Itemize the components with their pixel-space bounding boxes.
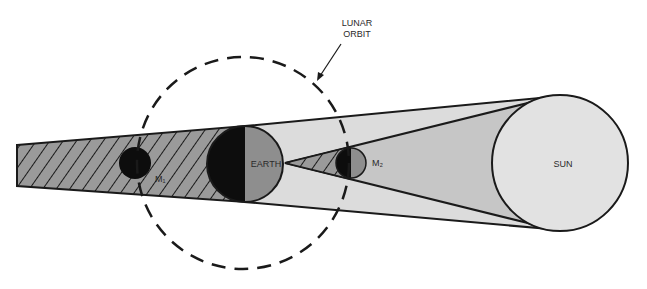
earth-label: EARTH: [251, 159, 281, 169]
sun-label: SUN: [553, 159, 572, 169]
moon-m1-label: M₁: [155, 174, 166, 184]
lunar-orbit-pointer: [317, 44, 341, 81]
moon-m1: [119, 147, 151, 179]
lunar-orbit-label-line2: ORBIT: [343, 29, 371, 39]
eclipse-diagram: LUNAR ORBIT EARTH SUN M₁ M₂: [0, 0, 647, 289]
lunar-orbit-label-line1: LUNAR: [342, 18, 373, 28]
moon-m2: [336, 148, 366, 178]
moon-m2-label: M₂: [372, 158, 383, 168]
